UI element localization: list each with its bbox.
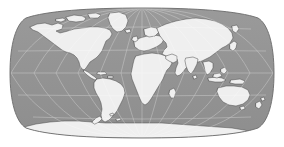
new-zealand-north	[261, 97, 265, 101]
tasmania	[240, 106, 245, 110]
hispaniola	[108, 76, 113, 78]
sri-lanka	[193, 75, 197, 79]
world-map-figure	[0, 0, 284, 147]
world-map-canvas	[0, 0, 284, 147]
